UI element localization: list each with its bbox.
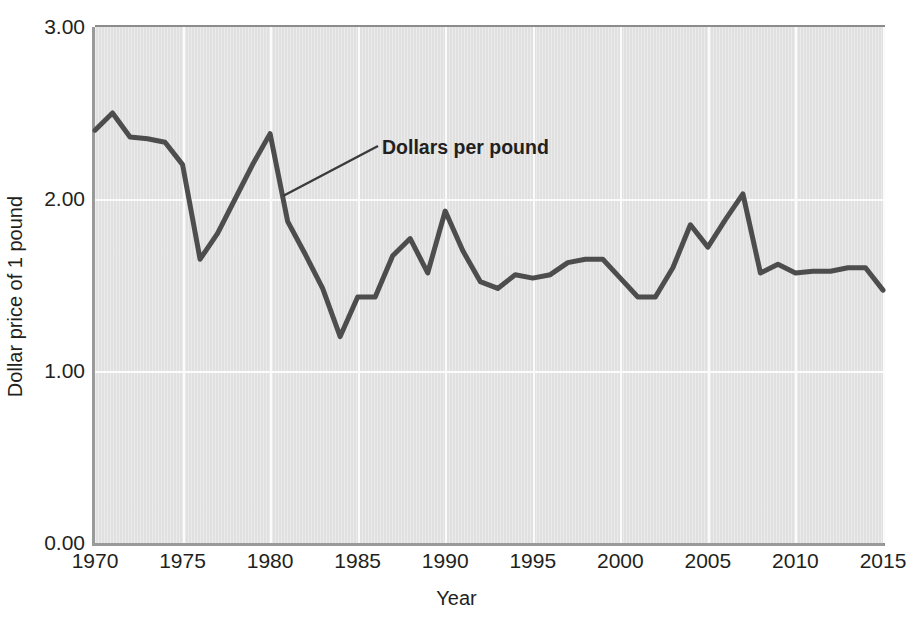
plot-top-border xyxy=(95,25,885,27)
chart-figure: 0.001.002.003.00 19701975198019851990199… xyxy=(0,0,913,625)
gridline-vertical xyxy=(795,27,797,543)
y-tick-label: 3.00 xyxy=(0,15,85,39)
x-tick-label: 2005 xyxy=(685,549,732,573)
gridline-vertical xyxy=(445,27,447,543)
x-tick-label: 2010 xyxy=(772,549,819,573)
gridline-vertical xyxy=(358,27,360,543)
gridline-vertical xyxy=(883,27,885,543)
x-tick-label: 2015 xyxy=(860,549,907,573)
plot-area xyxy=(95,27,885,546)
gridline-vertical xyxy=(533,27,535,543)
x-axis-title: Year xyxy=(0,587,913,610)
gridline-vertical xyxy=(183,27,185,543)
x-tick-label: 1985 xyxy=(334,549,381,573)
annotation-dollars-per-pound: Dollars per pound xyxy=(382,136,549,159)
gridline-vertical xyxy=(708,27,710,543)
plot-shade xyxy=(95,27,883,543)
x-tick-label: 2000 xyxy=(597,549,644,573)
gridline-horizontal xyxy=(95,199,883,201)
x-tick-label: 1980 xyxy=(247,549,294,573)
y-axis-line xyxy=(92,27,95,546)
x-tick-label: 1990 xyxy=(422,549,469,573)
plot-texture xyxy=(95,27,883,543)
x-tick-label: 1975 xyxy=(159,549,206,573)
gridline-vertical xyxy=(270,27,272,543)
gridline-horizontal xyxy=(95,371,883,373)
y-axis-title: Dollar price of 1 pound xyxy=(4,67,27,527)
x-tick-label: 1970 xyxy=(72,549,119,573)
x-tick-label: 1995 xyxy=(509,549,556,573)
gridline-vertical xyxy=(620,27,622,543)
